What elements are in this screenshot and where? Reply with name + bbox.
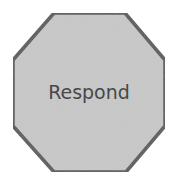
diagram-svg: Respond xyxy=(0,0,172,183)
octagon-label: Respond xyxy=(48,81,130,103)
diagram-canvas: Respond xyxy=(0,0,172,183)
